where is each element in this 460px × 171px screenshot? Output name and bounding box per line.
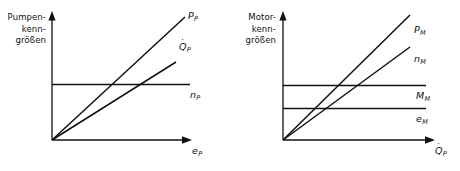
motor-y-axis xyxy=(279,11,286,140)
flow-rate-dot-accent-icon xyxy=(182,39,184,41)
motor-torque-symbol: M xyxy=(416,90,424,101)
pump-power-curve-label: PP xyxy=(188,10,198,21)
pump-y-axis-title: Pumpen- kenn- größen xyxy=(2,12,46,47)
motor-characteristics-panel: Motor- kenn- größen PM nM xyxy=(230,0,460,171)
pump-flow-rate-curve xyxy=(52,62,176,140)
pump-y-axis xyxy=(48,11,55,140)
pump-power-subscript: P xyxy=(194,15,198,23)
pump-x-axis-subscript: P xyxy=(198,150,202,158)
pump-flow-rate-symbol: Q xyxy=(179,41,186,52)
motor-power-subscript: M xyxy=(420,29,426,37)
motor-power-curve-label: PM xyxy=(414,24,425,35)
pump-power-symbol: P xyxy=(188,10,194,21)
x-axis-dot-accent-icon xyxy=(438,143,440,145)
motor-torque-curve-label: MM xyxy=(416,90,430,101)
motor-displacement-curve-label: eM xyxy=(416,113,427,124)
motor-torque-subscript: M xyxy=(425,95,431,103)
motor-power-curve xyxy=(283,15,410,140)
motor-x-axis-label: QP xyxy=(435,145,446,156)
motor-speed-curve-label: nM xyxy=(414,53,426,64)
pump-x-axis-symbol: e xyxy=(192,145,198,156)
motor-displacement-subscript: M xyxy=(422,118,428,126)
pump-speed-subscript: P xyxy=(196,94,200,102)
motor-speed-subscript: M xyxy=(420,58,426,66)
motor-speed-curve xyxy=(283,47,410,140)
motor-x-axis-subscript: P xyxy=(443,150,447,158)
motor-y-axis-title: Motor- kenn- größen xyxy=(232,12,276,47)
pump-characteristics-panel: Pumpen- kenn- größen PP QP xyxy=(0,0,230,171)
motor-power-symbol: P xyxy=(414,24,420,35)
pump-x-axis-label: eP xyxy=(192,145,202,156)
pump-flow-rate-curve-label: QP xyxy=(179,41,190,52)
motor-x-axis xyxy=(283,136,435,143)
pump-flow-rate-subscript: P xyxy=(187,46,191,54)
motor-displacement-symbol: e xyxy=(416,113,422,124)
pump-power-curve xyxy=(52,17,185,140)
motor-x-axis-symbol: Q xyxy=(435,145,442,156)
pump-x-axis xyxy=(52,136,192,143)
motor-x-axis-symbol-wrap: Q xyxy=(435,145,442,156)
pump-motor-characteristics-figure: Pumpen- kenn- größen PP QP xyxy=(0,0,460,171)
pump-speed-curve-label: nP xyxy=(190,89,200,100)
pump-flow-rate-symbol-wrap: Q xyxy=(179,41,186,52)
